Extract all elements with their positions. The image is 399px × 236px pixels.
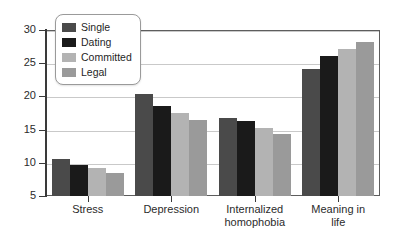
y-tick-mark <box>39 96 45 97</box>
y-tick-label-wrap: 10 <box>0 157 36 168</box>
y-tick-label-wrap: 15 <box>0 124 36 135</box>
legend-label: Committed <box>81 52 132 63</box>
bar <box>106 173 124 196</box>
chart-legend: SingleDatingCommittedLegal <box>55 14 141 85</box>
bar-chart: 51015202530 StressDepressionInternalized… <box>0 0 399 236</box>
y-tick-mark <box>39 130 45 131</box>
x-axis-label: Stress <box>46 203 130 216</box>
legend-item-dating: Dating <box>62 35 134 49</box>
bar-group <box>219 30 291 196</box>
legend-item-committed: Committed <box>62 50 134 64</box>
y-tick-label: 15 <box>2 124 36 135</box>
legend-swatch-icon <box>62 23 76 32</box>
x-tick-mark <box>338 196 339 202</box>
y-tick-mark <box>39 196 45 197</box>
legend-item-single: Single <box>62 20 134 34</box>
bar <box>320 56 338 196</box>
bar <box>189 120 207 196</box>
x-axis-label: Depression <box>130 203 214 216</box>
y-tick-label-wrap: 5 <box>0 190 36 201</box>
bar <box>135 94 153 196</box>
y-tick-mark <box>39 30 45 31</box>
bar <box>219 118 237 196</box>
legend-item-legal: Legal <box>62 65 134 79</box>
x-tick-mark <box>88 196 89 202</box>
bar <box>237 121 255 196</box>
bar <box>338 49 356 196</box>
legend-label: Single <box>81 22 110 33</box>
legend-label: Dating <box>81 37 111 48</box>
legend-swatch-icon <box>62 38 76 47</box>
bar <box>302 69 320 196</box>
y-tick-label: 25 <box>2 57 36 68</box>
bar-group <box>135 30 207 196</box>
bar <box>273 134 291 196</box>
y-tick-label: 10 <box>2 157 36 168</box>
y-tick-mark <box>39 163 45 164</box>
bar <box>88 168 106 196</box>
y-tick-label-wrap: 20 <box>0 90 36 101</box>
bar <box>171 113 189 196</box>
legend-swatch-icon <box>62 68 76 77</box>
legend-label: Legal <box>81 67 107 78</box>
x-tick-mark <box>171 196 172 202</box>
y-tick-label-wrap: 25 <box>0 57 36 68</box>
bar <box>52 159 70 196</box>
bar <box>70 165 88 196</box>
bar <box>255 128 273 196</box>
x-tick-mark <box>255 196 256 202</box>
bar <box>153 106 171 196</box>
y-tick-label: 30 <box>2 24 36 35</box>
y-tick-label-wrap: 30 <box>0 24 36 35</box>
x-axis-label: Meaning in life <box>297 203 381 229</box>
legend-swatch-icon <box>62 53 76 62</box>
y-tick-label: 20 <box>2 90 36 101</box>
y-tick-mark <box>39 63 45 64</box>
bar <box>356 42 374 196</box>
bar-group <box>302 30 374 196</box>
x-axis-label: Internalized homophobia <box>213 203 297 229</box>
y-tick-label: 5 <box>2 190 36 201</box>
